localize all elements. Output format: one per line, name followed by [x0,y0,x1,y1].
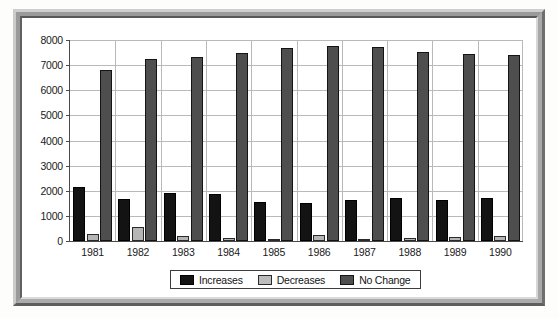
bar-decreases-1989 [449,237,461,241]
x-gridline [478,40,479,241]
x-gridline [387,40,388,241]
x-axis-tick-label: 1990 [489,246,512,258]
x-gridline [522,40,523,241]
y-axis-tick-label: 6000 [40,84,63,96]
chart-frame-outer-bevel: 0100020003000400050006000700080001981198… [13,9,545,306]
bar-increases-1988 [390,198,402,241]
y-axis-tick [66,65,70,66]
bar-no-change-1985 [281,48,293,241]
bar-decreases-1988 [404,238,416,241]
y-axis-tick [66,216,70,217]
x-axis-tick-label: 1986 [308,246,331,258]
bar-increases-1990 [481,198,493,241]
y-axis-tick-label: 8000 [40,34,63,46]
x-axis-tick-label: 1989 [444,246,467,258]
bar-decreases-1985 [268,239,280,242]
bar-decreases-1983 [177,236,189,241]
y-axis-tick-label: 2000 [40,185,63,197]
bar-decreases-1982 [132,227,144,241]
legend-item-no-change[interactable]: No Change [340,274,410,286]
y-axis-tick [66,40,70,41]
chart-frame-mid-bevel: 0100020003000400050006000700080001981198… [16,12,542,303]
bar-increases-1983 [164,193,176,241]
bar-no-change-1984 [236,53,248,241]
legend-swatch-no-change [340,275,354,285]
chart-canvas: 0100020003000400050006000700080001981198… [22,18,536,297]
chart-legend: IncreasesDecreasesNo Change [170,270,421,289]
x-gridline [342,40,343,241]
bar-increases-1987 [345,200,357,241]
x-axis-tick-label: 1981 [81,246,104,258]
y-axis-tick-label: 3000 [40,159,63,171]
legend-item-increases[interactable]: Increases [180,274,243,286]
bar-increases-1982 [118,199,130,241]
bar-no-change-1982 [145,59,157,241]
legend-label: Decreases [277,274,325,286]
y-axis-tick-label: 1000 [40,210,63,222]
y-axis-tick-label: 7000 [40,59,63,71]
legend-swatch-increases [180,275,194,285]
y-axis-tick [66,90,70,91]
scanned-page: 0100020003000400050006000700080001981198… [0,0,558,318]
x-axis-tick-label: 1987 [353,246,376,258]
bar-increases-1984 [209,194,221,241]
x-axis-tick-label: 1988 [398,246,421,258]
bar-decreases-1990 [494,236,506,241]
x-gridline [206,40,207,241]
y-axis-tick-label: 0 [57,235,63,247]
bar-no-change-1989 [463,54,475,241]
y-axis-tick-label: 4000 [40,134,63,146]
x-gridline [297,40,298,241]
bar-decreases-1981 [87,234,99,241]
bar-no-change-1987 [372,47,384,241]
chart-frame-inner-bevel: 0100020003000400050006000700080001981198… [20,16,538,299]
bar-increases-1985 [254,202,266,241]
bar-no-change-1981 [100,70,112,241]
y-axis-tick [66,115,70,116]
bar-no-change-1986 [327,46,339,241]
x-gridline [115,40,116,241]
bar-no-change-1990 [508,55,520,241]
y-axis-tick-label: 5000 [40,109,63,121]
bar-no-change-1988 [417,52,429,241]
y-axis-tick [66,141,70,142]
bar-no-change-1983 [191,57,203,241]
x-gridline [251,40,252,241]
y-axis-tick [66,166,70,167]
legend-label: No Change [359,274,410,286]
bar-decreases-1986 [313,235,325,241]
x-axis-tick-label: 1984 [217,246,240,258]
bar-decreases-1984 [223,238,235,241]
x-gridline [161,40,162,241]
x-gridline [432,40,433,241]
bar-decreases-1987 [358,239,370,241]
x-axis-tick-label: 1983 [172,246,195,258]
y-axis-tick [66,241,70,242]
legend-item-decreases[interactable]: Decreases [258,274,325,286]
plot-area: 0100020003000400050006000700080001981198… [69,40,523,242]
x-axis-tick-label: 1985 [263,246,286,258]
legend-label: Increases [199,274,243,286]
bar-increases-1981 [73,187,85,241]
legend-swatch-decreases [258,275,272,285]
bar-increases-1989 [436,200,448,241]
bar-increases-1986 [300,203,312,241]
x-axis-tick-label: 1982 [127,246,150,258]
y-axis-tick [66,191,70,192]
